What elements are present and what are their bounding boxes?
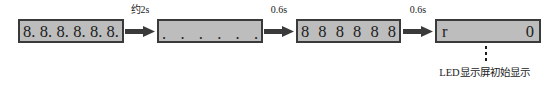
led-segment: 0 [526,23,534,40]
led-segment-row: . . . . . . [159,21,261,41]
led-segment: 8 [370,23,378,40]
diagram-caption: LED显示屏初始显示 [416,66,553,79]
led-segment: r [442,23,448,40]
led-display-step-3: 8 8 8 8 8 8 [296,19,401,43]
led-segment: 8 [336,23,344,40]
led-segment: . [180,29,184,39]
leader-dotted-line [484,46,488,63]
led-segment: 8. [23,23,35,40]
led-display-step-1: 8. 8. 8. 8. 8. 8. [18,19,124,43]
leader-dot [485,52,488,55]
led-segment: . [217,29,221,39]
led-display-step-4: r 0 [435,19,541,43]
led-segment: 8. [56,23,68,40]
led-segment: 8. [40,23,52,40]
led-segment: 8. [90,23,102,40]
led-startup-sequence-diagram: 8. 8. 8. 8. 8. 8. 约2s . . . . . . 0.6s [0,0,553,85]
led-segment: . [254,29,258,39]
led-display-step-2: . . . . . . [157,19,263,43]
led-segment: 8 [388,23,396,40]
led-segment-row: r 0 [437,21,539,41]
arrow-right-icon [125,26,155,37]
led-segment: 8 [353,23,361,40]
transition-label-1: 约2s [104,4,176,16]
led-segment: . [199,29,203,39]
transition-label-3: 0.6s [382,4,454,16]
led-segment-row: 8 8 8 8 8 8 [298,21,399,41]
transition-label-2: 0.6s [243,4,315,16]
leader-dot [485,46,488,49]
led-segment: . [236,29,240,39]
led-segment: 8 [301,23,309,40]
led-segment: 8. [107,23,119,40]
led-segment: 8 [318,23,326,40]
led-segment-row: 8. 8. 8. 8. 8. 8. [20,21,122,41]
led-segment: . [162,29,166,39]
led-segment: 8. [73,23,85,40]
arrow-right-icon [403,26,433,37]
arrow-right-icon [264,26,294,37]
leader-dot [485,58,488,61]
